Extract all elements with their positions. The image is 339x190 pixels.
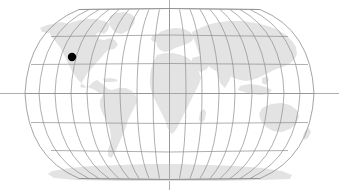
location-marker-dot[interactable] [68,53,76,61]
world-map-container [0,0,339,190]
world-map-svg [0,0,339,190]
